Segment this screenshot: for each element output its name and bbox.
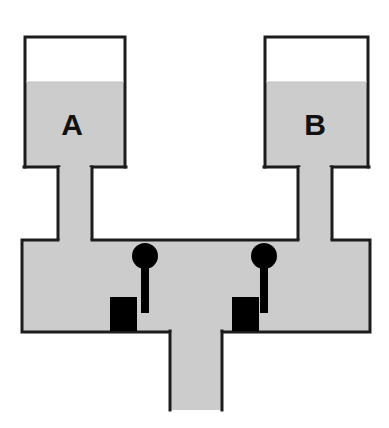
- vessel-a: A: [24, 37, 126, 167]
- right-valve-block: [232, 297, 259, 331]
- left-valve-block: [110, 297, 137, 331]
- vessel-a-neck-liquid: [58, 167, 92, 242]
- vessel-b: B: [264, 37, 369, 167]
- outlet-pipe: [170, 331, 222, 410]
- right-valve-ball-icon: [251, 243, 277, 269]
- vessel-a-air-space: [25, 37, 125, 82]
- vessel-a-label: A: [61, 108, 83, 141]
- bottom-chamber: [22, 240, 370, 332]
- outlet-pipe-liquid: [170, 332, 222, 410]
- left-valve-ball-icon: [132, 243, 158, 269]
- bottom-chamber-liquid: [22, 240, 370, 332]
- vessel-b-air-space: [265, 37, 368, 82]
- vessel-b-neck-liquid: [298, 167, 332, 242]
- vessel-b-label: B: [304, 108, 326, 141]
- apparatus-svg: A B: [0, 0, 389, 428]
- apparatus-diagram: A B: [0, 0, 389, 428]
- vessel-a-neck: [58, 167, 92, 242]
- vessel-b-neck: [298, 167, 332, 242]
